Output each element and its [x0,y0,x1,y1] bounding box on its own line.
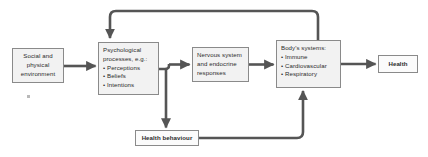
node-nervous-endocrine[interactable]: Nervous system and endocrine responses [192,47,249,82]
diagram-canvas: Social and physical environment Psycholo… [0,0,428,157]
node-nervous-line-3: responses [197,69,244,78]
node-body-systems[interactable]: Body's systems: • Immune • Cardiovascula… [276,40,341,88]
node-health-outcome[interactable]: Health [378,55,418,73]
node-psych-bullet-perceptions: • Perceptions [103,64,154,73]
node-body-heading: Body's systems: [281,44,336,53]
node-body-bullet-respiratory: • Respiratory [281,70,336,79]
node-nervous-line-1: Nervous system [197,51,244,60]
node-nervous-line-2: and endocrine [197,60,244,69]
node-health-label: Health [388,60,407,69]
node-behaviour-label: Health behaviour [142,134,193,143]
node-body-bullet-immune: • Immune [281,53,336,62]
node-social-line-2: physical [27,61,50,70]
node-psychological-processes[interactable]: Psychological processes, e.g.: • Percept… [98,42,159,95]
connector-psych-to-nervous [159,64,169,69]
connector-behaviour-to-body [199,91,303,138]
node-psych-heading-1: Psychological [103,46,154,55]
node-social-environment[interactable]: Social and physical environment [12,48,64,83]
node-psych-bullet-intentions: • Intentions [103,81,154,90]
node-health-behaviour[interactable]: Health behaviour [135,130,199,146]
node-psych-bullet-beliefs: • Beliefs [103,72,154,81]
connector-body-to-psych-feedback [110,11,318,40]
node-body-bullet-cardiovascular: • Cardiovascular [281,62,336,71]
node-social-line-3: environment [21,70,55,79]
node-social-line-1: Social and [23,52,52,61]
node-psych-heading-2: processes, e.g.: [103,55,154,64]
scan-artifact-speck [27,95,30,98]
